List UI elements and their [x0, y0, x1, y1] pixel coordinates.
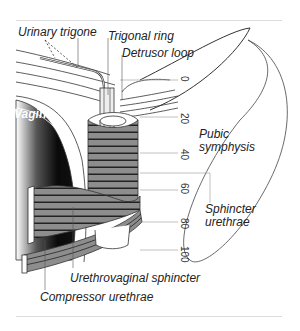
label-pubic-symphysis-2: symphysis — [199, 141, 255, 154]
label-urinary-trigone: Urinary trigone — [18, 26, 97, 39]
anatomy-figure: Urinary trigone Trigonal ring Detrusor l… — [0, 0, 300, 331]
label-vagina: Vagina — [14, 108, 53, 121]
label-detrusor-loop: Detrusor loop — [122, 47, 194, 60]
scale-tick-60: 60 — [179, 183, 190, 194]
label-compressor-urethrae: Compressor urethrae — [40, 291, 153, 304]
label-urethrovaginal-sphincter: Urethrovaginal sphincter — [70, 272, 200, 285]
scale-tick-0: 0 — [179, 76, 190, 82]
distal-urethra — [95, 225, 130, 249]
label-trigonal-ring: Trigonal ring — [108, 30, 174, 43]
scale-tick-20: 20 — [179, 113, 190, 124]
scale-tick-40: 40 — [179, 149, 190, 160]
label-sphincter-urethrae-2: urethrae — [205, 216, 250, 229]
scale-tick-80: 80 — [179, 218, 190, 229]
scale-tick-100: 100 — [179, 246, 190, 263]
